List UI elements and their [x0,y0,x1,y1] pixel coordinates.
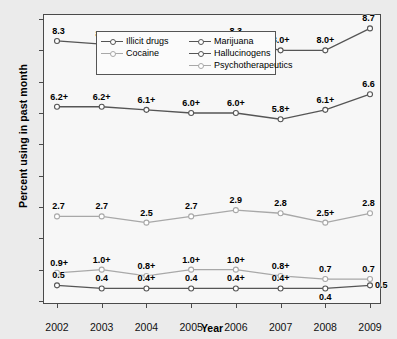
y-tick-mark [39,144,44,145]
data-point-label: 2.5 [140,208,153,218]
data-point-marker [189,286,194,291]
x-tick-mark [102,303,103,308]
data-point-label: 8.7 [362,13,375,23]
legend-grid: Illicit drugsMarijuanaCocaineHallucinoge… [101,36,271,71]
data-point-label: 0.7 [362,264,375,274]
legend-item-cocaine[interactable]: Cocaine [101,48,189,59]
data-point-marker [55,214,60,219]
y-tick-mark [39,301,44,302]
legend-line-marker-icon [189,61,211,70]
data-point-marker [323,286,328,291]
legend-item-label: Illicit drugs [126,36,169,47]
legend-item-psychotherapeutics[interactable]: Psychotherapeutics [189,60,293,71]
y-tick-mark [39,19,44,20]
data-point-label: 6.6 [362,79,375,89]
data-point-label: 0.5 [52,270,65,280]
y-tick-mark [39,176,44,177]
data-point-label: 6.0+ [227,98,245,108]
data-point-label: 1.0+ [93,255,111,265]
y-tick-mark [39,238,44,239]
data-point-marker [55,283,60,288]
data-point-marker [99,104,104,109]
data-point-marker [233,208,238,213]
data-point-label: 0.4+ [138,273,156,283]
data-point-marker [99,267,104,272]
legend-item-illicit-drugs[interactable]: Illicit drugs [101,36,189,47]
x-tick-mark [57,303,58,308]
data-point-marker [144,220,149,225]
data-point-label: 2.8 [274,198,287,208]
x-axis-title: Year [43,322,381,334]
y-tick-mark [39,207,44,208]
data-point-label: 0.8+ [272,261,290,271]
data-point-label: 2.7 [95,201,108,211]
chart-legend: Illicit drugsMarijuanaCocaineHallucinoge… [96,31,276,75]
data-point-marker [368,277,373,282]
data-point-label: 6.1+ [316,95,334,105]
data-point-label: 2.7 [52,201,65,211]
data-point-marker [368,26,373,31]
data-point-label: 8.0+ [316,35,334,45]
data-point-label: 0.5 [375,280,388,290]
data-point-marker [323,107,328,112]
legend-spacer [101,60,189,71]
data-point-label: 0.7 [319,264,332,274]
data-point-marker [233,111,238,116]
data-point-label: 0.9+ [50,258,68,268]
data-point-label: 0.8+ [138,261,156,271]
data-point-marker [323,48,328,53]
data-point-label: 0.4 [319,292,332,302]
data-point-label: 2.7 [185,201,198,211]
data-point-marker [99,214,104,219]
x-tick-mark [281,303,282,308]
legend-item-hallucinogens[interactable]: Hallucinogens [189,48,293,59]
data-point-label: 6.2+ [50,92,68,102]
data-point-marker [99,286,104,291]
data-point-marker [233,286,238,291]
data-point-label: 6.2+ [93,92,111,102]
legend-line-marker-icon [189,37,211,46]
legend-item-label: Hallucinogens [214,48,271,59]
data-point-label: 0.4 [95,273,108,283]
y-tick-mark [39,113,44,114]
data-point-marker [189,214,194,219]
data-point-label: 5.8+ [272,104,290,114]
data-point-label: 1.0+ [227,255,245,265]
x-tick-mark [370,303,371,308]
x-tick-mark [325,303,326,308]
data-point-label: 0.4+ [272,273,290,283]
plot-area: 8.38.27.9+8.1+8.38.0+8.0+8.76.2+6.2+6.1+… [43,14,381,304]
y-axis-title: Percent using in past month [17,21,29,251]
data-point-label: 0.4+ [227,273,245,283]
series-hallucinogens [55,283,373,291]
data-point-label: 1.0+ [182,255,200,265]
data-point-label: 2.5+ [316,208,334,218]
y-tick-mark [39,50,44,51]
data-point-label: 0.4 [185,273,198,283]
data-point-marker [233,267,238,272]
data-point-marker [144,107,149,112]
legend-item-label: Cocaine [126,48,159,59]
legend-item-label: Marijuana [214,36,254,47]
data-point-marker [55,104,60,109]
data-point-marker [368,92,373,97]
legend-item-marijuana[interactable]: Marijuana [189,36,293,47]
data-point-marker [278,286,283,291]
legend-line-marker-icon [101,37,123,46]
data-point-marker [55,38,60,43]
x-tick-mark [191,303,192,308]
y-tick-mark [39,270,44,271]
data-point-marker [189,111,194,116]
data-point-label: 8.3 [52,26,65,36]
data-point-marker [278,117,283,122]
data-point-label: 2.8 [362,198,375,208]
data-point-label: 2.9 [230,195,243,205]
data-point-marker [368,211,373,216]
data-point-marker [189,267,194,272]
data-point-marker [144,286,149,291]
data-point-marker [368,283,373,288]
data-point-label: 6.0+ [182,98,200,108]
data-point-marker [278,211,283,216]
x-tick-mark [236,303,237,308]
legend-line-marker-icon [101,49,123,58]
